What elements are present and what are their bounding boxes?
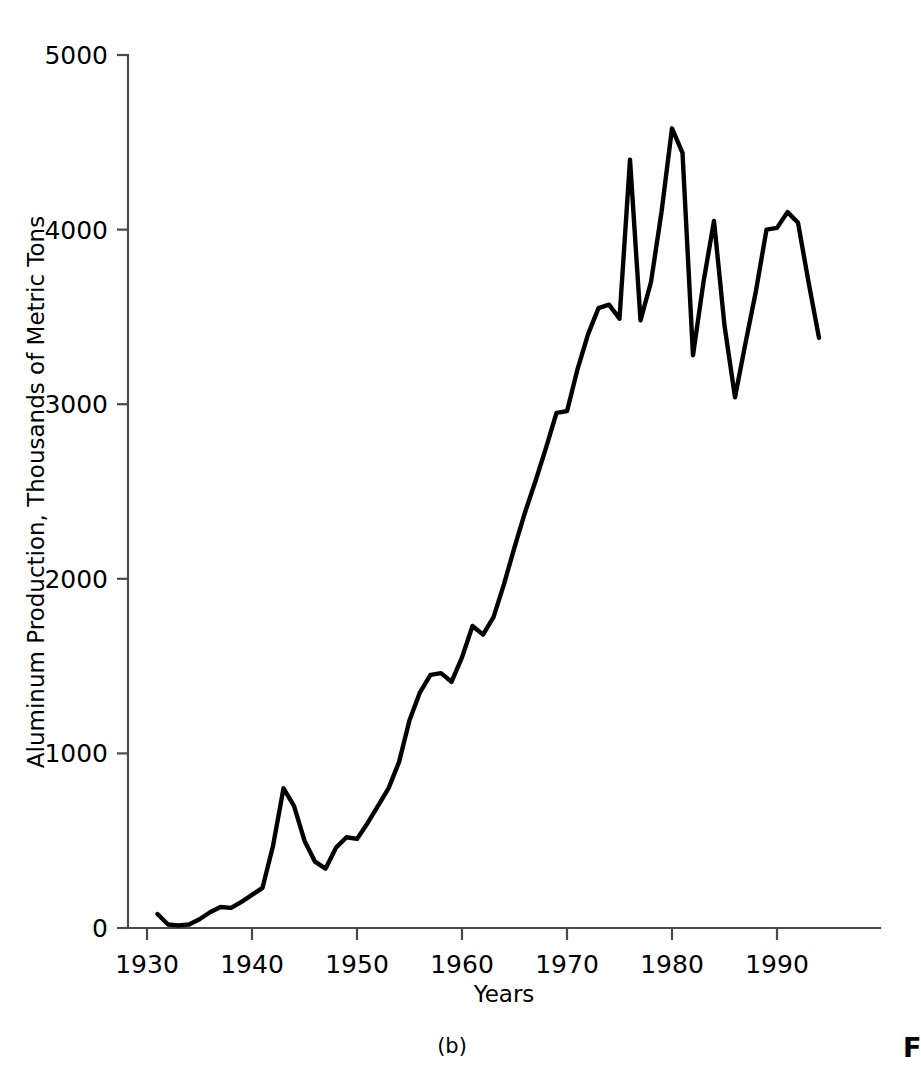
y-tick-label: 3000 — [44, 390, 108, 419]
x-tick-label: 1990 — [745, 950, 809, 979]
y-tick-label: 2000 — [44, 565, 108, 594]
chart-background — [0, 0, 921, 1088]
x-tick-label: 1970 — [535, 950, 599, 979]
x-tick-label: 1930 — [115, 950, 179, 979]
figure-root: 010002000300040005000 193019401950196019… — [0, 0, 921, 1088]
y-tick-label: 1000 — [44, 739, 108, 768]
figure-caption-partial: F — [903, 1032, 921, 1063]
y-tick-label: 4000 — [44, 216, 108, 245]
y-tick-label: 0 — [92, 914, 108, 943]
x-tick-label: 1950 — [325, 950, 389, 979]
y-axis-title: Aluminum Production, Thousands of Metric… — [23, 216, 49, 768]
x-axis-title: Years — [473, 981, 535, 1007]
aluminum-production-line-chart: 010002000300040005000 193019401950196019… — [0, 0, 921, 1088]
x-tick-label: 1960 — [430, 950, 494, 979]
y-tick-label: 5000 — [44, 41, 108, 70]
x-tick-label: 1940 — [220, 950, 284, 979]
panel-label: (b) — [437, 1034, 467, 1058]
x-tick-label: 1980 — [640, 950, 704, 979]
